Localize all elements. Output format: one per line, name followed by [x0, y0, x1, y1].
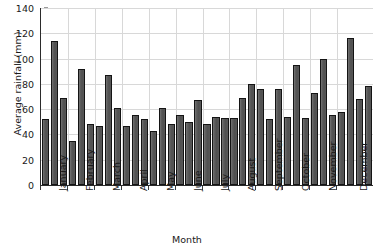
bar — [96, 126, 103, 185]
bar — [203, 124, 210, 185]
x-tick-label: March — [111, 162, 122, 191]
x-tick-label: November — [327, 142, 338, 191]
x-tick-mark — [40, 186, 41, 190]
y-axis-tick-labels: 020406080100120140 — [8, 0, 34, 249]
bar — [150, 131, 157, 185]
rainfall-bar-chart: Average rainfall (mm) 020406080100120140… — [0, 0, 374, 249]
bar — [284, 117, 291, 185]
y-tick-label: 0 — [8, 180, 34, 191]
x-tick-label: June — [192, 170, 203, 191]
x-tick-label: September — [273, 138, 284, 191]
bar — [311, 93, 318, 185]
y-tick-label: 20 — [8, 154, 34, 165]
y-tick-label: 60 — [8, 104, 34, 115]
y-tick-label: 100 — [8, 53, 34, 64]
x-tick-label: October — [300, 153, 311, 191]
bar — [69, 141, 76, 185]
x-tick-label: April — [138, 169, 149, 191]
x-tick-label: July — [219, 174, 230, 191]
y-tick-label: 120 — [8, 28, 34, 39]
y-tick-label: 80 — [8, 78, 34, 89]
bar — [347, 38, 354, 185]
y-tick-label: 140 — [8, 3, 34, 14]
x-axis-title: Month — [0, 234, 374, 245]
bar — [230, 118, 237, 185]
bar — [123, 126, 130, 185]
y-tick-label: 40 — [8, 129, 34, 140]
bar — [257, 89, 264, 185]
x-tick-label: February — [84, 149, 95, 191]
bar — [42, 119, 49, 185]
x-tick-label: May — [165, 171, 176, 191]
bar — [338, 112, 345, 185]
x-tick-label: December — [358, 142, 369, 191]
x-tick-label: August — [246, 158, 257, 191]
bar — [176, 115, 183, 185]
x-tick-label: January — [57, 155, 68, 191]
